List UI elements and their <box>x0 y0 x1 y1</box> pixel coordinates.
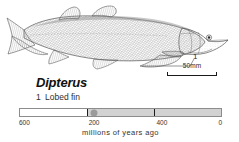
timeline-label-400: 400 <box>156 119 167 127</box>
timeline-tick-200 <box>154 109 155 116</box>
fish-head <box>179 28 228 55</box>
callout-number-1: 1 <box>193 52 197 61</box>
timeline-occurrence-marker <box>90 109 97 116</box>
timeline-track <box>19 108 222 117</box>
callout-key-item: 1 Lobed fin <box>36 92 186 103</box>
pelvic-fin <box>93 59 118 69</box>
callout-key-label: Lobed fin <box>45 92 80 103</box>
specimen-name: Dipterus <box>36 76 186 90</box>
dorsal-fin-second <box>92 6 116 17</box>
callout-key-list: 1 Lobed fin <box>36 92 186 103</box>
fish-eye-pupil <box>208 36 211 39</box>
timeline-label-0: 0 <box>218 119 222 127</box>
dorsal-fin-first <box>59 7 80 20</box>
scale-bar: 50mm <box>166 62 218 76</box>
geologic-timeline: 600 400 200 0 millions of years ago <box>19 108 222 140</box>
figure-root: 1 50mm Dipterus 1 Lobed fin 600 400 200 <box>0 0 239 142</box>
scale-bar-label: 50mm <box>166 62 218 70</box>
timeline-label-600: 600 <box>19 119 30 127</box>
caption-block: Dipterus 1 Lobed fin <box>36 76 186 103</box>
timeline-label-200: 200 <box>89 119 100 127</box>
timeline-tick-400 <box>87 109 88 116</box>
scale-bar-cap-right <box>216 72 217 76</box>
callout-key-number: 1 <box>36 92 45 103</box>
timeline-axis-title: millions of years ago <box>19 128 222 137</box>
